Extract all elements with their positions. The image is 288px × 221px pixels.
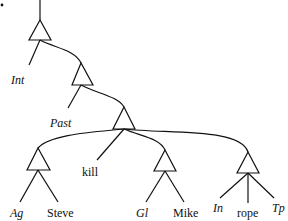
- edge-gl: [146, 171, 165, 202]
- node-triangle-root: [29, 20, 51, 40]
- label-rope: rope: [237, 207, 258, 219]
- node-triangle-goal: [154, 150, 176, 171]
- label-tp: Tp: [272, 202, 285, 214]
- edge-ag: [20, 170, 38, 202]
- node-triangle-past: [72, 63, 93, 85]
- label-kill: kill: [82, 166, 98, 178]
- edge-kill: [97, 129, 124, 160]
- stray-dot: [1, 4, 3, 6]
- tree-diagram: Int Past kill Ag Steve Gl Mike In rope T…: [0, 0, 288, 221]
- edge-root-to-past-node: [40, 40, 81, 63]
- edge-in: [220, 173, 248, 198]
- edge-int: [29, 40, 40, 65]
- label-int: Int: [11, 74, 24, 86]
- edge-past: [68, 85, 81, 108]
- label-mike: Mike: [173, 207, 198, 219]
- node-triangle-vp: [113, 107, 135, 129]
- label-gl: Gl: [136, 207, 148, 219]
- edge-tp: [248, 173, 274, 198]
- edge-to-instrument-node: [124, 129, 248, 152]
- tree-edges: [0, 0, 288, 221]
- label-steve: Steve: [47, 207, 74, 219]
- edge-to-vp-node: [81, 85, 124, 107]
- edge-to-agent-node: [38, 129, 124, 148]
- label-ag: Ag: [10, 207, 23, 219]
- edge-steve: [38, 170, 58, 202]
- node-triangle-agent: [27, 148, 50, 170]
- label-in: In: [213, 202, 223, 214]
- node-triangle-instrument: [237, 152, 259, 173]
- edge-mike: [165, 171, 184, 202]
- label-past: Past: [50, 117, 71, 129]
- edge-to-goal-node: [124, 129, 165, 150]
